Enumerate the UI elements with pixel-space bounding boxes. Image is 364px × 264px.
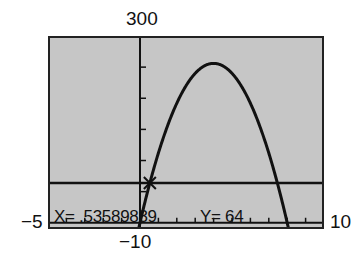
graph-plot (48, 36, 324, 229)
xmax-label: 10 (330, 212, 351, 231)
y-coordinate-readout: Y= 64 (200, 208, 243, 225)
ymax-label: 300 (126, 9, 158, 28)
x-coordinate-readout: X= .53589839 (54, 208, 157, 225)
ymin-label: −10 (119, 232, 151, 251)
parabola-curve (136, 63, 291, 229)
xmin-label: −5 (21, 212, 43, 231)
